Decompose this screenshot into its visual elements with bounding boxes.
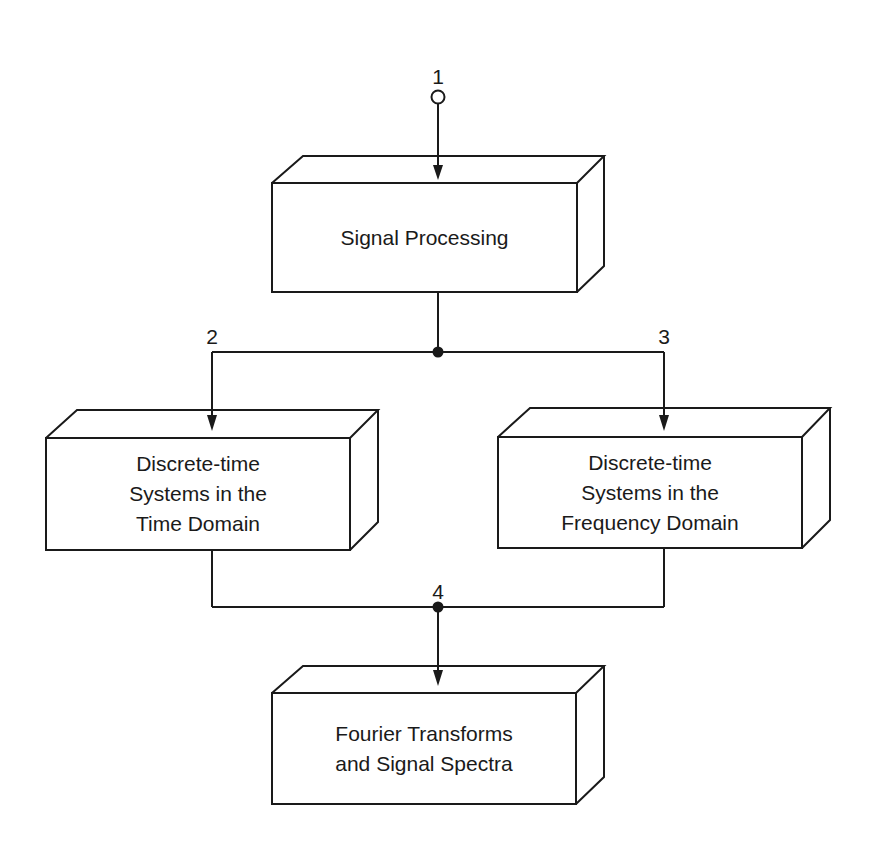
frequency-domain-line-1: Discrete-time	[588, 448, 712, 478]
node-label-3: 3	[658, 326, 670, 347]
frequency-domain-line-3: Frequency Domain	[561, 508, 738, 538]
arrowhead-fourier	[433, 670, 443, 686]
fourier-line-1: Fourier Transforms	[335, 719, 512, 749]
time-domain-line-1: Discrete-time	[136, 449, 260, 479]
frequency-domain-line-2: Systems in the	[581, 478, 719, 508]
input-node-circle	[432, 91, 445, 104]
arrowhead-time-domain	[207, 415, 217, 431]
node-label-4: 4	[432, 581, 444, 602]
arrowhead-signal-processing	[433, 165, 443, 180]
signal-processing-label: Signal Processing	[272, 183, 577, 292]
time-domain-line-3: Time Domain	[136, 509, 260, 539]
time-domain-label: Discrete-time Systems in the Time Domain	[46, 438, 350, 550]
node-label-1: 1	[432, 66, 444, 87]
fourier-line-2: and Signal Spectra	[335, 749, 512, 779]
fourier-label: Fourier Transforms and Signal Spectra	[272, 693, 576, 804]
frequency-domain-label: Discrete-time Systems in the Frequency D…	[498, 437, 802, 548]
signal-processing-line-1: Signal Processing	[340, 223, 508, 253]
time-domain-line-2: Systems in the	[129, 479, 267, 509]
node-label-2: 2	[206, 326, 218, 347]
arrowhead-frequency-domain	[659, 415, 669, 431]
